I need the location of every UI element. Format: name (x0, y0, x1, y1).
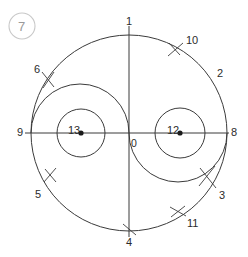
figure-canvas: 7 1 10 2 6 9 13 0 12 8 3 5 11 4 (0, 0, 248, 257)
label-0: 0 (131, 138, 137, 149)
label-3: 3 (219, 190, 225, 201)
label-6: 6 (34, 64, 40, 75)
label-11: 11 (187, 218, 198, 229)
label-10: 10 (186, 35, 198, 46)
label-5: 5 (35, 189, 41, 200)
leader-tick-3 (200, 168, 216, 188)
label-2: 2 (217, 68, 223, 79)
geometry-diagram (0, 0, 248, 257)
label-4: 4 (126, 237, 132, 248)
label-12: 12 (167, 125, 179, 136)
label-13: 13 (68, 125, 80, 136)
label-1: 1 (126, 16, 132, 27)
label-8: 8 (231, 127, 237, 138)
leader-tick-5-cross (45, 169, 56, 182)
label-9: 9 (17, 127, 23, 138)
figure-badge-label: 7 (18, 20, 25, 33)
